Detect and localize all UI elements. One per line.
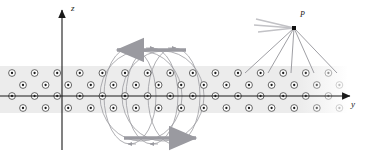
figure-canvas: z y P bbox=[0, 0, 365, 161]
point-p-rays bbox=[245, 19, 337, 73]
point-p-marker bbox=[292, 26, 296, 30]
y-axis-label: y bbox=[351, 100, 355, 109]
z-axis-label: z bbox=[71, 4, 75, 13]
point-p-label: P bbox=[300, 11, 305, 19]
magnetized-slab-diagram bbox=[0, 0, 365, 161]
